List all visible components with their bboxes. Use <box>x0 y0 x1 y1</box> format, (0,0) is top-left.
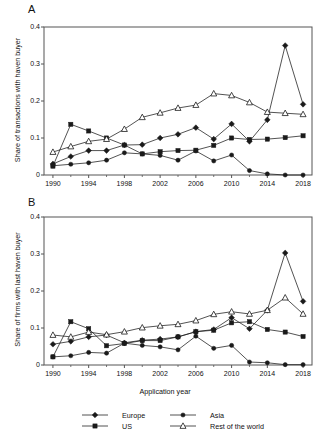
panel-b-plot <box>0 196 324 396</box>
legend-label-us: US <box>122 422 132 431</box>
legend-label-asia: Asia <box>210 411 224 420</box>
legend-label-europe: Europe <box>122 411 145 420</box>
legend-markers <box>0 405 324 435</box>
legend-label-rest-of-the-world: Rest of the world <box>210 422 264 431</box>
legend: EuropeAsiaUSRest of the world <box>0 405 324 435</box>
series-rest-of-the-world <box>50 295 306 340</box>
panel-a-plot <box>0 0 324 200</box>
figure-root: A Share of transactions with haven buyer… <box>0 0 324 438</box>
